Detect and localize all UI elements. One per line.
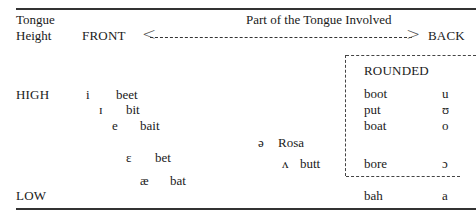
rounded-symbol: ɔ <box>442 157 448 171</box>
vowel-word: beet <box>116 88 138 102</box>
arrow-shaft <box>150 37 412 38</box>
front-label: FRONT <box>82 29 126 43</box>
rounded-box-bottom <box>346 176 460 177</box>
row-low: LOW <box>16 189 46 203</box>
rounded-word: bore <box>364 157 387 171</box>
vowel-word: bat <box>170 174 186 188</box>
vowel-word: Rosa <box>278 136 304 150</box>
vowel-symbol: e <box>112 119 118 133</box>
vowel-word: butt <box>300 157 320 171</box>
back-label: BACK <box>428 29 465 43</box>
vowel-symbol: æ <box>140 174 149 188</box>
rounded-word: boat <box>364 119 386 133</box>
vowel-word: bet <box>155 151 171 165</box>
vowel-symbol: ə <box>258 136 264 150</box>
vowel-symbol: i <box>86 88 90 102</box>
rounded-box-left <box>345 55 346 176</box>
vowel-word: bait <box>140 119 160 133</box>
vowel-symbol: ɪ <box>99 103 103 117</box>
low-back-symbol: a <box>442 189 448 203</box>
vowel-symbol: ʌ <box>282 157 289 171</box>
arrow-left-icon: < <box>142 27 156 41</box>
bottom-rule <box>16 208 476 210</box>
rounded-symbol: u <box>442 87 449 101</box>
vowel-word: bit <box>126 103 140 117</box>
rounded-word: boot <box>364 87 387 101</box>
rounded-title: ROUNDED <box>364 64 429 78</box>
top-rule <box>16 8 476 10</box>
arrow-right-icon: > <box>406 27 420 41</box>
vowel-symbol: ɛ <box>126 151 131 165</box>
rounded-symbol: o <box>442 119 449 133</box>
rounded-word: put <box>364 103 381 117</box>
column-title: Part of the Tongue Involved <box>246 13 391 27</box>
low-back-word: bah <box>364 189 383 203</box>
row-label-tongue: Tongue <box>16 13 55 27</box>
row-label-height: Height <box>16 29 51 43</box>
rounded-symbol: ʊ <box>442 103 449 117</box>
rounded-box-top <box>346 55 476 56</box>
row-high: HIGH <box>16 88 49 102</box>
